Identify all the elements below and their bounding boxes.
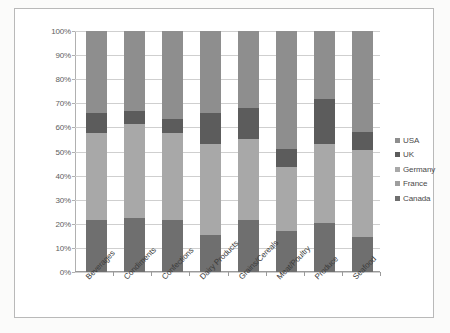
y-tick-label: 30% bbox=[56, 195, 71, 204]
bar-segment-usa[interactable] bbox=[238, 31, 259, 108]
y-axis-labels: 100%90%80%70%60%50%40%30%20%10%0% bbox=[35, 31, 71, 272]
bar-segment-uk[interactable] bbox=[276, 149, 297, 167]
y-tick-mark bbox=[72, 248, 75, 249]
bar-grains-cereals[interactable] bbox=[238, 31, 259, 272]
bar-segment-usa[interactable] bbox=[162, 31, 183, 119]
bar-produce[interactable] bbox=[314, 31, 335, 272]
y-tick-mark bbox=[72, 200, 75, 201]
y-tick-mark bbox=[72, 31, 75, 32]
bar-segment-uk[interactable] bbox=[352, 132, 373, 150]
page-background: 100%90%80%70%60%50%40%30%20%10%0% Bevera… bbox=[0, 0, 450, 333]
bar-segment-germany[interactable] bbox=[86, 133, 107, 220]
bar-seafood[interactable] bbox=[352, 31, 373, 272]
bar-segment-uk[interactable] bbox=[238, 108, 259, 139]
legend-label: Canada bbox=[403, 194, 430, 203]
y-tick-label: 0% bbox=[60, 268, 71, 277]
bar-segment-germany[interactable] bbox=[162, 133, 183, 220]
bar-segment-uk[interactable] bbox=[124, 111, 145, 124]
legend-swatch-icon bbox=[395, 138, 400, 143]
bar-segment-usa[interactable] bbox=[276, 31, 297, 149]
legend-label: France bbox=[403, 179, 427, 188]
y-tick-mark bbox=[72, 103, 75, 104]
chart-frame: 100%90%80%70%60%50%40%30%20%10%0% Bevera… bbox=[14, 8, 434, 318]
y-tick-mark bbox=[72, 79, 75, 80]
y-tick-label: 90% bbox=[56, 51, 71, 60]
bar-segment-germany[interactable] bbox=[124, 124, 145, 218]
y-tick-mark bbox=[72, 127, 75, 128]
bar-segment-uk[interactable] bbox=[162, 119, 183, 133]
plot-area bbox=[75, 31, 380, 272]
bar-confections[interactable] bbox=[162, 31, 183, 272]
bar-segment-uk[interactable] bbox=[86, 113, 107, 133]
bar-segment-usa[interactable] bbox=[124, 31, 145, 111]
y-tick-label: 40% bbox=[56, 171, 71, 180]
legend-item-uk[interactable]: UK bbox=[395, 148, 450, 163]
y-tick-mark bbox=[72, 224, 75, 225]
bar-segment-germany[interactable] bbox=[352, 150, 373, 237]
legend-label: USA bbox=[403, 136, 419, 145]
y-tick-label: 70% bbox=[56, 99, 71, 108]
legend-swatch-icon bbox=[395, 167, 400, 172]
bar-segment-germany[interactable] bbox=[276, 167, 297, 231]
chart-legend: USAUKGermanyFranceCanada bbox=[395, 133, 450, 206]
legend-item-canada[interactable]: Canada bbox=[395, 191, 450, 206]
legend-item-usa[interactable]: USA bbox=[395, 133, 450, 148]
bar-beverages[interactable] bbox=[86, 31, 107, 272]
legend-swatch-icon bbox=[395, 196, 400, 201]
legend-label: UK bbox=[403, 150, 414, 159]
bar-condiments[interactable] bbox=[124, 31, 145, 272]
y-tick-label: 10% bbox=[56, 243, 71, 252]
bar-dairy-products[interactable] bbox=[200, 31, 221, 272]
bar-segment-germany[interactable] bbox=[200, 144, 221, 234]
y-tick-mark bbox=[72, 152, 75, 153]
legend-swatch-icon bbox=[395, 181, 400, 186]
y-tick-mark bbox=[72, 55, 75, 56]
bar-segment-uk[interactable] bbox=[314, 99, 335, 145]
legend-swatch-icon bbox=[395, 152, 400, 157]
y-tick-label: 60% bbox=[56, 123, 71, 132]
y-tick-label: 20% bbox=[56, 219, 71, 228]
legend-label: Germany bbox=[403, 165, 435, 174]
x-axis-labels: BeveragesCondimentsConfectionsDairy Prod… bbox=[75, 275, 395, 333]
bar-segment-usa[interactable] bbox=[200, 31, 221, 113]
bar-segment-germany[interactable] bbox=[238, 139, 259, 220]
bar-meat-poultry[interactable] bbox=[276, 31, 297, 272]
bar-segment-usa[interactable] bbox=[314, 31, 335, 98]
bar-segment-uk[interactable] bbox=[200, 113, 221, 144]
bar-segment-usa[interactable] bbox=[352, 31, 373, 132]
y-tick-label: 100% bbox=[51, 27, 71, 36]
bar-segment-usa[interactable] bbox=[86, 31, 107, 113]
y-tick-label: 50% bbox=[56, 147, 71, 156]
y-tick-mark bbox=[72, 176, 75, 177]
legend-item-france[interactable]: France bbox=[395, 177, 450, 192]
legend-item-germany[interactable]: Germany bbox=[395, 162, 450, 177]
bar-segment-germany[interactable] bbox=[314, 144, 335, 222]
y-tick-label: 80% bbox=[56, 75, 71, 84]
y-tick-mark bbox=[72, 272, 75, 273]
